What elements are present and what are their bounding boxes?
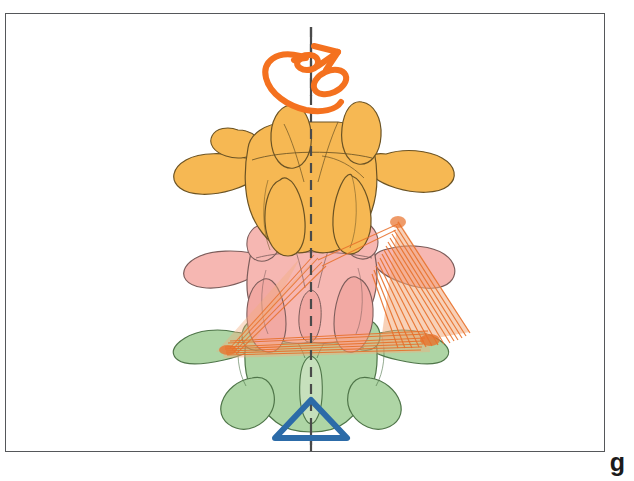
figure-root: g: [0, 0, 634, 481]
figure-panel-label: g: [610, 450, 625, 475]
illustration-panel-frame: [5, 13, 605, 452]
